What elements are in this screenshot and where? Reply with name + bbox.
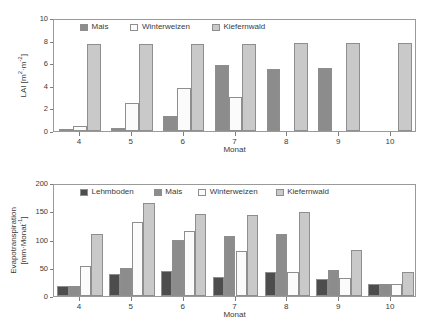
legend-swatch-icon-mais [80,24,88,31]
lai-x-tick-label-6: 6 [163,138,203,146]
bar-et-kiefernwald-month-5 [143,203,154,296]
lai-y-tick-label: 0 [44,128,48,136]
bar-et-mais-month-4 [69,286,80,296]
bar-lai-kiefernwald-month-8 [294,43,308,131]
bar-lai-mais-month-6 [163,116,177,131]
lai-y-tick-label: 6 [44,60,48,68]
et-plot-area [53,184,416,297]
bar-et-lehmboden-month-8 [265,272,276,296]
et-x-tick-mark [183,297,184,301]
legend-item-lehmboden[interactable]: Lehmboden [80,188,134,196]
legend-item-winterweizen[interactable]: Winterweizen [130,23,190,31]
et-x-tick-mark [390,297,391,301]
et-x-tick-label-4: 4 [59,303,99,311]
lai-x-tick-mark [79,132,80,136]
lai-x-tick-mark [235,132,236,136]
bar-et-winterweizen-month-7 [236,251,247,296]
et-x-tick-label-10: 10 [370,303,410,311]
lai-y-tick-mark [50,132,54,133]
bar-et-winterweizen-month-10 [391,284,402,296]
et-x-tick-label-9: 9 [318,303,358,311]
legend-label-mais: Mais [92,23,109,31]
lai-plot-area [53,19,416,132]
bar-et-kiefernwald-month-8 [299,212,310,296]
et-x-tick-mark [286,297,287,301]
bar-et-kiefernwald-month-9 [351,250,362,296]
bar-et-lehmboden-month-4 [57,286,68,296]
legend-item-kiefernwald[interactable]: Kiefernwald [212,23,265,31]
et-x-tick-mark [131,297,132,301]
et-x-tick-label-8: 8 [266,303,306,311]
lai-x-tick-mark [390,132,391,136]
bar-lai-kiefernwald-month-10 [398,43,412,131]
legend-swatch-icon-lehmboden [80,189,88,196]
chart-panel-lai: LAI [m2·m-2] 0246810 45678910 Monat Mais… [0,0,422,160]
bar-et-kiefernwald-month-10 [402,272,413,296]
bar-et-winterweizen-month-4 [80,266,91,297]
bar-lai-kiefernwald-month-4 [87,44,101,131]
et-x-tick-label-5: 5 [111,303,151,311]
lai-y-tick-label: 4 [44,83,48,91]
et-x-tick-mark [235,297,236,301]
lai-x-tick-mark [183,132,184,136]
bar-lai-mais-month-7 [215,65,229,131]
legend-swatch-icon-winterweizen [198,189,206,196]
bar-lai-kiefernwald-month-5 [139,44,153,131]
figure-root: LAI [m2·m-2] 0246810 45678910 Monat Mais… [0,0,422,322]
lai-x-tick-label-8: 8 [266,138,306,146]
bar-lai-kiefernwald-month-6 [191,44,205,131]
et-y-tick-label: 150 [35,208,48,216]
lai-x-tick-label-4: 4 [59,138,99,146]
lai-x-tick-label-10: 10 [370,138,410,146]
legend-item-winterweizen[interactable]: Winterweizen [198,188,258,196]
et-x-tick-mark [79,297,80,301]
legend-item-mais[interactable]: Mais [80,23,108,31]
bar-et-winterweizen-month-5 [132,222,143,296]
bar-lai-winterweizen-month-4 [73,126,87,131]
bar-et-winterweizen-month-6 [184,231,195,296]
legend-swatch-icon-winterweizen [130,24,138,31]
legend-label-winterweizen: Winterweizen [142,23,190,31]
lai-y-axis-title: LAI [m2·m-2] [19,19,29,132]
lai-x-tick-mark [131,132,132,136]
et-x-tick-label-6: 6 [163,303,203,311]
legend-label-kiefernwald: Kiefernwald [223,23,265,31]
legend-item-kiefernwald[interactable]: Kiefernwald [276,188,329,196]
bar-lai-mais-month-8 [267,69,281,131]
bar-et-mais-month-10 [380,284,391,296]
lai-x-tick-mark [286,132,287,136]
bar-et-mais-month-5 [120,268,131,296]
chart-panel-evapotranspiration: Evapotranspiration[mm·Monat-1] 050100150… [0,160,422,322]
legend-label-mais: Mais [165,188,182,196]
bar-et-kiefernwald-month-6 [195,214,206,296]
et-y-tick-label: 100 [35,237,48,245]
bar-lai-mais-month-4 [59,129,73,131]
lai-y-tick-label: 8 [44,38,48,46]
et-y-tick-label: 0 [44,293,48,301]
lai-x-tick-label-5: 5 [111,138,151,146]
bar-et-lehmboden-month-9 [316,279,327,297]
bar-lai-winterweizen-month-5 [125,103,139,131]
bar-et-kiefernwald-month-7 [247,215,258,296]
legend-swatch-icon-kiefernwald [276,189,284,196]
bar-et-mais-month-7 [224,236,235,296]
et-y-tick-label: 50 [40,265,48,273]
et-x-tick-mark [338,297,339,301]
legend-item-mais[interactable]: Mais [154,188,182,196]
lai-x-tick-label-9: 9 [318,138,358,146]
bar-et-mais-month-9 [328,270,339,296]
lai-x-axis-title: Monat [53,146,416,154]
legend-label-winterweizen: Winterweizen [210,188,258,196]
bar-et-lehmboden-month-6 [161,271,172,296]
lai-x-tick-mark [338,132,339,136]
bar-lai-kiefernwald-month-9 [346,43,360,131]
bar-et-kiefernwald-month-4 [91,234,102,296]
bar-et-winterweizen-month-9 [339,278,350,296]
lai-y-tick-label: 2 [44,105,48,113]
bar-et-winterweizen-month-8 [287,272,298,296]
et-y-tick-label: 200 [35,180,48,188]
bar-lai-mais-month-9 [318,68,332,131]
bar-et-lehmboden-month-7 [213,277,224,296]
legend-label-lehmboden: Lehmboden [92,188,134,196]
bar-et-lehmboden-month-5 [109,274,120,296]
